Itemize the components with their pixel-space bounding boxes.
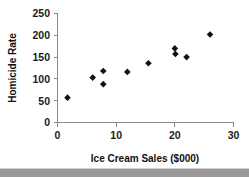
data-point xyxy=(207,31,214,38)
y-axis-ticks xyxy=(54,14,58,123)
x-axis-tick-labels: 0 10 20 30 xyxy=(55,129,240,141)
x-tick-label-0: 0 xyxy=(55,129,61,141)
x-tick-label-30: 30 xyxy=(228,129,240,141)
y-axis-title: Homicide Rate xyxy=(7,33,18,103)
data-point xyxy=(145,60,152,67)
data-point xyxy=(89,74,96,81)
scatter-plot: 0 50 100 150 200 250 0 10 20 30 Ice Crea… xyxy=(0,0,249,177)
x-tick-label-20: 20 xyxy=(169,129,181,141)
data-points-layer xyxy=(64,31,213,101)
data-point xyxy=(64,94,71,101)
y-axis-tick-labels: 0 50 100 150 200 250 xyxy=(32,7,50,128)
data-point xyxy=(100,81,107,88)
y-tick-label-150: 150 xyxy=(32,51,50,63)
y-tick-label-100: 100 xyxy=(32,73,50,85)
x-axis-ticks xyxy=(58,123,234,127)
data-point xyxy=(124,69,131,76)
y-tick-label-200: 200 xyxy=(32,29,50,41)
data-point xyxy=(100,68,107,75)
y-tick-label-50: 50 xyxy=(38,95,50,107)
y-tick-label-250: 250 xyxy=(32,7,50,19)
x-axis-title: Ice Cream Sales ($000) xyxy=(91,153,199,164)
x-tick-label-10: 10 xyxy=(110,129,122,141)
footer-bar xyxy=(0,169,249,177)
data-point xyxy=(183,54,190,61)
data-point xyxy=(172,45,179,52)
data-point xyxy=(172,51,179,58)
chart-figure: 0 50 100 150 200 250 0 10 20 30 Ice Crea… xyxy=(0,0,249,177)
y-tick-label-0: 0 xyxy=(44,116,50,128)
